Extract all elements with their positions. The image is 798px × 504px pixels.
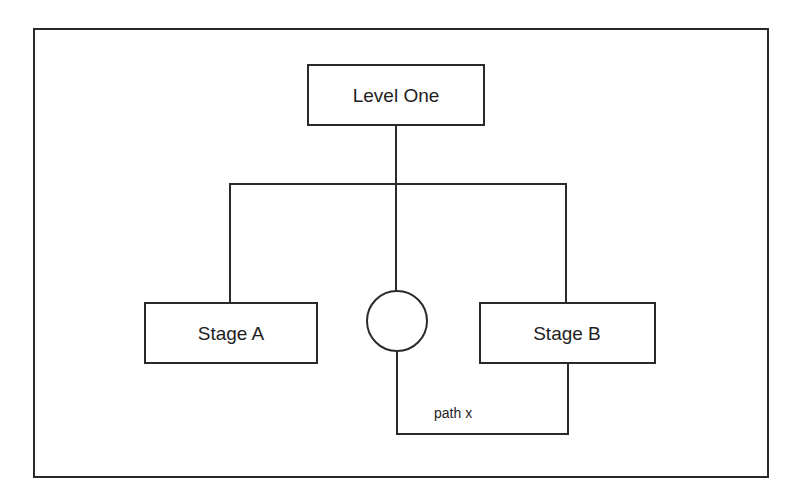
path-x-label: path x [434, 405, 472, 421]
diagram-canvas: Level One Stage A Stage B path x [0, 0, 798, 504]
node-stage-b-label: Stage B [533, 323, 601, 344]
connector-bus-stages [230, 184, 566, 303]
node-level-one[interactable]: Level One [308, 65, 484, 125]
connectors [230, 125, 568, 434]
node-stage-a-label: Stage A [198, 323, 265, 344]
node-stage-a[interactable]: Stage A [145, 303, 317, 363]
node-stage-b[interactable]: Stage B [480, 303, 655, 363]
node-circle[interactable] [367, 291, 427, 351]
node-level-one-label: Level One [353, 85, 440, 106]
